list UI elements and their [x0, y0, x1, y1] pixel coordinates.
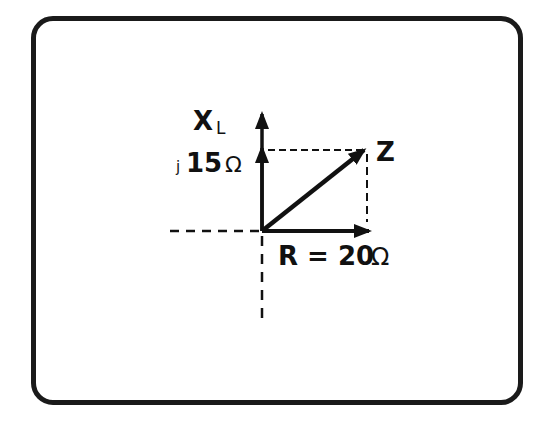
z-label: Z	[376, 137, 395, 167]
r-unit-label: Ω	[371, 243, 389, 271]
r-label: R = 20	[278, 241, 374, 271]
xl-value-unit: Ω	[225, 152, 242, 177]
xl-value-prefix: j	[175, 158, 180, 176]
xl-subscript-label: L	[216, 118, 226, 138]
xl-symbol-label: X	[193, 106, 213, 136]
z-phasor-arrow	[262, 150, 364, 231]
xl-value-number: 15	[186, 148, 222, 178]
phasor-diagram: X L j 15 Ω Z R = 20 Ω	[0, 0, 545, 424]
